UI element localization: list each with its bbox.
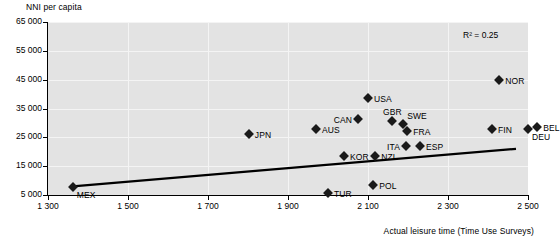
y-axis-tick-label: 45 000	[0, 74, 42, 84]
x-axis-tick-label: 1 700	[197, 201, 218, 211]
y-axis-tick-label: 55 000	[0, 45, 42, 55]
x-axis-tick	[528, 196, 529, 200]
y-axis-tick-label: 35 000	[0, 103, 42, 113]
data-point-label: SWE	[407, 111, 427, 121]
y-axis-tick	[43, 109, 48, 110]
vertical-gridline	[368, 22, 369, 195]
x-axis-tick-label: 2 100	[357, 201, 378, 211]
data-point-label: BEL	[543, 123, 559, 133]
data-point-label: USA	[374, 94, 392, 104]
data-point-label: ESP	[426, 142, 443, 152]
x-axis-title: Actual leisure time (Time Use Surveys)	[384, 226, 534, 236]
y-axis-tick-label: 5 000	[0, 189, 42, 199]
y-axis-tick-label: 15 000	[0, 160, 42, 170]
x-axis-tick-label: 1 500	[117, 201, 138, 211]
y-axis-tick	[43, 51, 48, 52]
plot-area	[48, 22, 528, 195]
r-squared-annotation: R² = 0.25	[463, 30, 498, 40]
data-point-label: FRA	[413, 127, 430, 137]
x-axis-tick	[288, 196, 289, 200]
x-axis-tick-label: 1 900	[277, 201, 298, 211]
data-point-label: NZL	[381, 152, 397, 162]
y-axis-tick	[43, 137, 48, 138]
data-point-label: KOR	[350, 152, 369, 162]
data-point-marker[interactable]	[532, 122, 542, 132]
y-axis-tick	[43, 166, 48, 167]
y-axis-tick	[43, 22, 48, 23]
data-point-label: POL	[379, 181, 396, 191]
vertical-gridline	[448, 22, 449, 195]
data-point-label: JPN	[255, 130, 271, 140]
x-axis-tick	[208, 196, 209, 200]
y-axis-tick-label: 65 000	[0, 16, 42, 26]
y-axis-tick-labels: 5 00015 00025 00035 00045 00055 00065 00…	[0, 0, 42, 242]
data-point-label: MEX	[77, 190, 96, 200]
vertical-gridline	[128, 22, 129, 195]
data-point-label: ITA	[387, 142, 400, 152]
x-axis-tick	[448, 196, 449, 200]
x-axis-tick	[128, 196, 129, 200]
x-axis-tick	[48, 196, 49, 200]
data-point-label: NOR	[505, 76, 524, 86]
vertical-gridline	[208, 22, 209, 195]
x-axis-tick-label: 2 300	[437, 201, 458, 211]
y-axis-tick-label: 25 000	[0, 131, 42, 141]
data-point-label: AUS	[322, 125, 340, 135]
vertical-gridline	[288, 22, 289, 195]
y-axis-tick	[43, 80, 48, 81]
data-point-label: DEU	[532, 132, 550, 142]
data-point-label: FIN	[498, 125, 512, 135]
x-axis-tick	[368, 196, 369, 200]
x-axis-tick-label: 1 300	[37, 201, 58, 211]
data-point-label: TUR	[334, 189, 352, 199]
x-axis-tick-label: 2 500	[517, 201, 538, 211]
data-point-label: GBR	[383, 107, 402, 117]
data-point-label: CAN	[334, 115, 352, 125]
